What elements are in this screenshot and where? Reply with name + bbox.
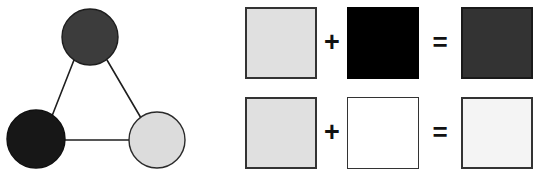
node-light-gray[interactable]: [129, 112, 185, 168]
triad-edges: [52, 60, 141, 140]
edge-top-to-bottom-left: [52, 60, 74, 116]
equals-operator: =: [426, 29, 454, 55]
plus-operator: +: [318, 29, 346, 56]
triad-graph: [0, 0, 200, 171]
plus-operator: +: [318, 119, 346, 146]
dark-gray-result-swatch[interactable]: [461, 7, 533, 79]
edge-top-to-bottom-right: [107, 60, 141, 118]
light-gray-swatch[interactable]: [245, 7, 317, 79]
near-white-result-swatch[interactable]: [461, 97, 533, 169]
triad-nodes: [7, 9, 185, 168]
equals-operator: =: [426, 119, 454, 145]
equation-row: + =: [245, 3, 545, 83]
triad-graph-panel: [0, 0, 200, 171]
node-dark-gray[interactable]: [62, 9, 118, 65]
node-black[interactable]: [7, 110, 65, 168]
white-swatch[interactable]: [347, 97, 419, 169]
light-gray-swatch[interactable]: [245, 97, 317, 169]
figure-root: + = + =: [0, 0, 545, 171]
equation-row: + =: [245, 93, 545, 171]
black-swatch[interactable]: [347, 7, 419, 79]
equations-panel: + = + =: [245, 0, 545, 171]
